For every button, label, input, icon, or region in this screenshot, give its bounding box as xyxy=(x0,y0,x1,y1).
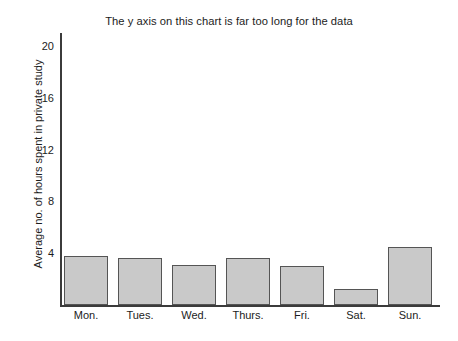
y-tick-label: 16 xyxy=(42,92,54,104)
bar xyxy=(118,33,162,305)
bar xyxy=(388,33,432,305)
x-axis-line xyxy=(60,305,440,307)
bar-rect xyxy=(388,247,432,305)
bar-rect xyxy=(172,265,216,305)
bar xyxy=(172,33,216,305)
bar xyxy=(226,33,270,305)
y-tick-label: 20 xyxy=(42,40,54,52)
bar xyxy=(280,33,324,305)
y-axis-label: Average no. of hours spent in private st… xyxy=(32,34,44,294)
y-tick-label: 8 xyxy=(48,195,54,207)
bar-chart: The y axis on this chart is far too long… xyxy=(0,0,458,341)
x-tick-label: Sun. xyxy=(375,309,445,321)
bar xyxy=(334,33,378,305)
bar-rect xyxy=(280,266,324,305)
bar xyxy=(64,33,108,305)
bar-rect xyxy=(226,258,270,305)
y-tick-label: 12 xyxy=(42,144,54,156)
bar-rect xyxy=(334,289,378,305)
bar-rect xyxy=(118,258,162,305)
bar-rect xyxy=(64,256,108,305)
chart-title: The y axis on this chart is far too long… xyxy=(0,15,458,27)
y-tick-label: 4 xyxy=(48,247,54,259)
